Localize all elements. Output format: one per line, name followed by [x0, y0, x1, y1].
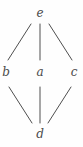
edge-b-d: [9, 87, 32, 123]
node-label-b: b: [0, 66, 13, 78]
edge-e-c: [49, 24, 72, 60]
node-label-d: d: [33, 128, 47, 140]
node-label-a: a: [33, 66, 47, 78]
edge-e-b: [8, 24, 31, 60]
hasse-diagram-figure: ebacd: [0, 0, 83, 147]
edge-c-d: [48, 87, 71, 123]
node-label-c: c: [67, 66, 81, 78]
node-label-e: e: [33, 7, 47, 19]
